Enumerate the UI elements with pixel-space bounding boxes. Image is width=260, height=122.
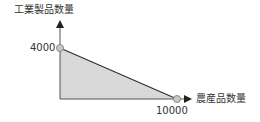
x-intercept-point — [174, 96, 181, 103]
x-intercept-label: 10000 — [156, 106, 188, 116]
y-axis-label: 工業製品数量 — [14, 5, 74, 15]
y-intercept-point — [57, 45, 64, 52]
y-intercept-label: 4000 — [30, 43, 55, 53]
x-axis-label: 農産品数量 — [196, 94, 246, 104]
